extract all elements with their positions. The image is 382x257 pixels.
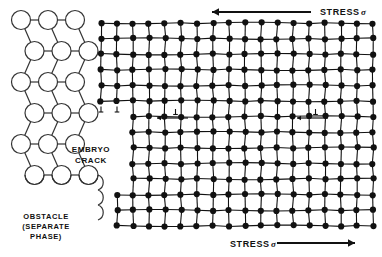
obstacle-bond — [79, 91, 85, 105]
lattice-atom — [369, 129, 375, 135]
lattice-atom — [241, 113, 247, 119]
lattice-atom — [323, 82, 329, 88]
obstacle-bond — [25, 60, 31, 74]
lattice-atom — [354, 83, 360, 89]
lattice-atom — [162, 145, 168, 151]
lattice-atom — [177, 192, 183, 198]
lattice-atom — [146, 52, 152, 58]
lattice-atom — [337, 191, 343, 197]
lattice-atom — [258, 67, 264, 73]
stress-arrow-top — [212, 8, 311, 16]
lattice-atom — [322, 144, 328, 150]
lattice-atom — [259, 82, 265, 88]
lattice-atom — [194, 36, 200, 42]
lattice-atom — [162, 66, 168, 72]
lattice-atom — [130, 35, 136, 41]
lattice-atom — [130, 207, 136, 213]
obstacle-particle — [66, 135, 85, 154]
lattice-atom — [162, 83, 168, 89]
obstacle-particle — [39, 11, 58, 30]
obstacle-particle — [52, 42, 71, 61]
lattice-atom — [257, 177, 263, 183]
lattice-atom — [145, 192, 151, 198]
lattice-atom — [275, 19, 281, 25]
lattice-atom — [306, 20, 312, 26]
lattice-atom — [337, 130, 343, 136]
lattice-atom — [130, 114, 136, 120]
lattice-atom — [194, 207, 200, 213]
lattice-atom — [242, 207, 248, 213]
lattice-atom — [258, 97, 264, 103]
lattice-atom — [146, 66, 152, 72]
lattice-atom — [177, 83, 183, 89]
lattice-atom — [257, 36, 263, 42]
lattice-atom — [305, 145, 311, 151]
lattice-atom — [275, 160, 281, 166]
lattice-atom — [114, 67, 120, 73]
lattice-atom — [322, 223, 328, 229]
lattice-atom — [354, 21, 360, 27]
lattice-atom — [353, 98, 359, 104]
lattice-atom — [338, 176, 344, 182]
lattice-atom — [161, 223, 167, 229]
lattice-atom — [354, 222, 360, 228]
lattice-atom — [273, 176, 279, 182]
lattice-atom — [275, 98, 281, 104]
lattice-atom — [305, 207, 311, 213]
lattice-atom — [178, 97, 184, 103]
lattice-atom — [275, 191, 281, 197]
lattice-atom — [337, 98, 343, 104]
obstacle-bond — [52, 29, 58, 43]
lattice-atom — [371, 144, 377, 150]
lattice-atom — [146, 83, 152, 89]
lattice-atom — [290, 98, 296, 104]
obstacle-bond — [79, 122, 85, 136]
lattice-atom — [338, 144, 344, 150]
lattice-atom — [370, 35, 376, 41]
lattice-atom — [274, 114, 280, 120]
lattice-atom — [146, 145, 152, 151]
lattice-atom — [193, 51, 199, 57]
lattice-atom — [338, 51, 344, 57]
lattice-atom — [161, 192, 167, 198]
lattice-atom — [369, 21, 375, 27]
lattice-atom — [179, 35, 185, 41]
lattice-atom — [98, 66, 104, 72]
lattice-atom — [322, 176, 328, 182]
lattice-atom — [211, 176, 217, 182]
lattice-atom — [339, 113, 345, 119]
lattice-atom — [130, 192, 136, 198]
lattice-atom — [129, 67, 135, 73]
lattice-atom — [338, 82, 344, 88]
lattice-atom — [227, 36, 233, 42]
lattice-atom — [98, 36, 104, 42]
lattice-atom — [114, 83, 120, 89]
lattice-atom — [210, 128, 216, 134]
lattice-atom — [369, 82, 375, 88]
lattice-atom — [242, 83, 248, 89]
dislocation-symbol-crack-tip-1 — [99, 107, 104, 113]
lattice-atom — [129, 161, 135, 167]
lattice-atom — [163, 176, 169, 182]
lattice-atom — [209, 83, 215, 89]
lattice-atom — [146, 98, 152, 104]
lattice-atom — [353, 130, 359, 136]
lattice-atom — [305, 35, 311, 41]
obstacle-bond — [52, 91, 58, 105]
lattice-atom — [338, 36, 344, 42]
lattice-atom — [243, 160, 249, 166]
lattice-atom — [115, 207, 121, 213]
lattice-atom — [289, 113, 295, 119]
lattice-atom — [178, 161, 184, 167]
lattice-atom — [146, 223, 152, 229]
lattice-atom — [322, 51, 328, 57]
lattice-atom — [209, 222, 215, 228]
lattice-atom — [289, 208, 295, 214]
lattice-atom — [194, 191, 200, 197]
lattice-atom — [97, 98, 103, 104]
arrow-head — [212, 8, 219, 16]
lattice-atom — [194, 129, 200, 135]
stress-arrow-bottom — [277, 239, 355, 247]
obstacle-particle — [52, 104, 71, 123]
dislocation-symbol-glide-1 — [173, 109, 178, 115]
